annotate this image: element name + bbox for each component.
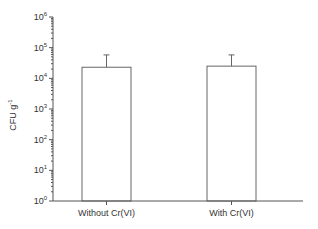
x-axis-tick-labels: Without Cr(VI)With Cr(VI) — [78, 208, 254, 218]
y-tick-label: 105 — [34, 42, 48, 53]
y-tick-label: 100 — [34, 195, 48, 206]
y-tick-label: 103 — [34, 103, 48, 114]
y-tick-label: 102 — [34, 134, 48, 145]
y-tick-label: 101 — [34, 164, 48, 175]
x-tick-label: With Cr(VI) — [209, 208, 254, 218]
bar-chart: 100101102103104105106 CFU g-1 Without Cr… — [0, 0, 318, 229]
x-tick-label: Without Cr(VI) — [78, 208, 135, 218]
bar — [82, 67, 131, 201]
y-axis-tick-labels: 100101102103104105106 — [34, 11, 48, 206]
x-axis-ticks — [107, 201, 232, 205]
y-tick-label: 106 — [34, 11, 48, 22]
y-axis-title: CFU g-1 — [7, 99, 18, 131]
y-tick-label: 104 — [34, 72, 48, 83]
bar — [207, 66, 256, 201]
bars — [82, 55, 256, 201]
y-axis-ticks — [49, 17, 53, 201]
